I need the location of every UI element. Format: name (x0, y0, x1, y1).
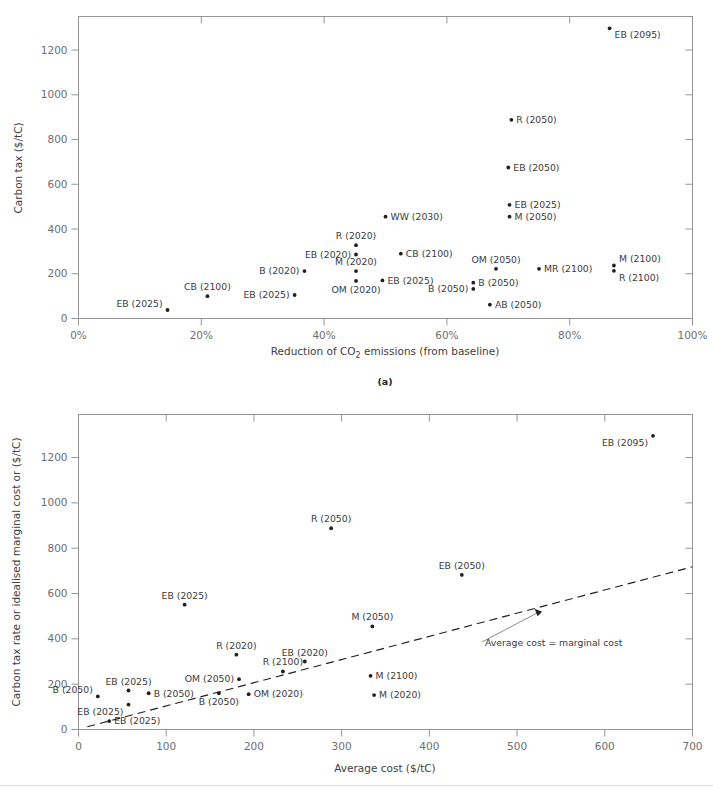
data-point: EB (2025) (107, 715, 160, 726)
data-point: M (2100) (369, 670, 418, 681)
x-axis-label-a: Reduction of CO2 emissions (from baselin… (271, 345, 500, 360)
x-tick-label: 0 (75, 740, 82, 752)
point-marker (183, 603, 187, 607)
point-marker (147, 691, 151, 695)
point-label: M (2020) (379, 689, 421, 700)
point-marker (237, 677, 241, 681)
y-tick-label: 400 (47, 632, 67, 644)
data-point: B (2050) (428, 283, 475, 294)
panel-a-svg: 020040060080010001200 0%20%40%60%80%100%… (0, 0, 713, 396)
x-tick-labels-b: 0100200300400500600700 (75, 740, 702, 752)
data-point: EB (2050) (506, 162, 559, 173)
point-marker (234, 653, 238, 657)
y-axis-label-b: Carbon tax rate or idealised marginal co… (10, 437, 22, 706)
panel-b-svg: 020040060080010001200 010020030040050060… (0, 396, 713, 787)
data-point: R (2020) (216, 640, 256, 657)
point-label: OM (2050) (471, 254, 520, 265)
data-point: M (2020) (372, 689, 421, 700)
data-point: EB (2025) (244, 289, 297, 300)
point-marker (651, 434, 655, 438)
data-point: EB (2025) (162, 590, 208, 607)
data-point: B (2020) (259, 265, 306, 276)
point-label: EB (2025) (105, 676, 151, 687)
point-marker (537, 267, 541, 271)
data-point: OM (2020) (247, 688, 303, 699)
point-marker (508, 215, 512, 219)
point-label: R (2050) (516, 114, 556, 125)
point-marker (509, 118, 513, 122)
point-marker (217, 691, 221, 695)
data-points-a: EB (2095)R (2050)EB (2050)EB (2025)M (20… (116, 26, 660, 311)
x-tick-label: 700 (682, 740, 702, 752)
point-marker (372, 693, 376, 697)
x-tick-label: 100 (156, 740, 176, 752)
data-point: M (2050) (351, 611, 393, 628)
point-label: B (2020) (259, 265, 299, 276)
point-marker (329, 526, 333, 530)
x-tick-label: 500 (507, 740, 527, 752)
point-marker (96, 695, 100, 699)
point-label: B (2050) (428, 283, 468, 294)
y-tick-label: 600 (47, 587, 67, 599)
x-tick-label: 100% (677, 329, 707, 341)
y-tick-label: 1000 (41, 88, 68, 100)
point-label: R (2020) (216, 640, 256, 651)
point-label: EB (2025) (114, 715, 160, 726)
point-marker (166, 308, 170, 312)
figure-container: 020040060080010001200 0%20%40%60%80%100%… (0, 0, 713, 787)
point-marker (399, 252, 403, 256)
point-label: M (2100) (376, 670, 418, 681)
data-point: B (2050) (147, 688, 194, 699)
point-label: EB (2095) (615, 29, 661, 40)
point-label: EB (2025) (387, 275, 433, 286)
point-label: CB (2100) (184, 281, 231, 292)
x-tick-label: 60% (435, 329, 458, 341)
point-label: EB (2050) (439, 560, 485, 571)
data-point: EB (2025) (116, 298, 169, 312)
data-point: M (2050) (508, 211, 557, 222)
point-label: R (2050) (311, 513, 351, 524)
point-marker (354, 269, 358, 273)
point-label: EB (2050) (513, 162, 559, 173)
point-marker (127, 703, 131, 707)
data-point: R (2050) (311, 513, 351, 530)
point-label: EB (2025) (244, 289, 290, 300)
point-label: R (2020) (336, 230, 376, 241)
point-marker (471, 287, 475, 291)
plot-frame-a (79, 17, 693, 319)
point-label: B (2050) (53, 684, 93, 695)
point-marker (247, 692, 251, 696)
point-marker (612, 264, 616, 268)
point-marker (608, 26, 612, 30)
point-label: M (2100) (619, 253, 661, 264)
point-label: OM (2050) (185, 673, 234, 684)
x-axis-label-b: Average cost ($/tC) (334, 762, 435, 774)
point-label: WW (2030) (391, 211, 443, 222)
x-tick-labels-a: 0%20%40%60%80%100% (70, 329, 707, 341)
data-point: M (2100) (612, 253, 661, 267)
data-point: EB (2095) (608, 26, 661, 40)
data-point: OM (2050) (471, 254, 520, 271)
annotation-label: Average cost = marginal cost (485, 637, 623, 648)
y-tick-label: 1000 (41, 496, 68, 508)
point-marker (370, 624, 374, 628)
point-marker (494, 267, 498, 271)
x-tick-label: 400 (419, 740, 439, 752)
point-label: B (2050) (154, 688, 194, 699)
point-marker (303, 660, 307, 664)
y-tick-label: 1200 (41, 451, 68, 463)
x-tick-label: 80% (558, 329, 581, 341)
point-label: EB (2025) (116, 298, 162, 309)
data-point: EB (2025) (381, 275, 434, 286)
y-axis-label-a: Carbon tax ($/tC) (12, 122, 24, 213)
point-marker (303, 269, 307, 273)
x-tick-label: 600 (595, 740, 615, 752)
point-label: EB (2025) (515, 199, 561, 210)
point-marker (488, 303, 492, 307)
point-label: M (2020) (335, 256, 377, 267)
point-marker (506, 166, 510, 170)
point-label: AB (2050) (495, 299, 542, 310)
point-label: EB (2095) (602, 437, 648, 448)
data-point: AB (2050) (488, 299, 542, 310)
y-tick-label: 0 (61, 312, 68, 324)
